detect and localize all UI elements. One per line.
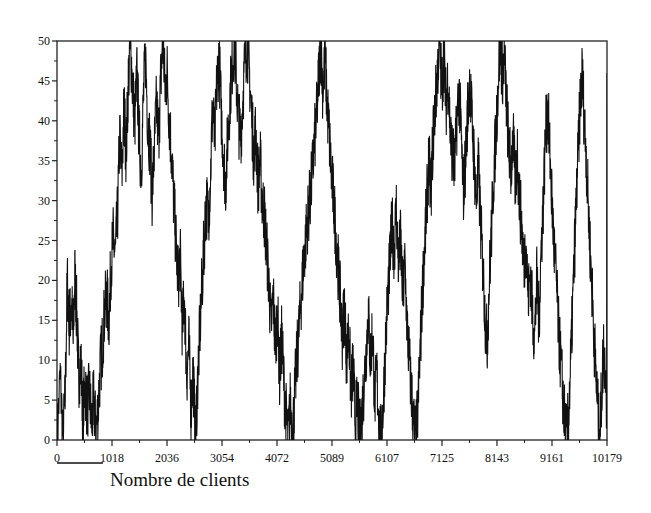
x-tick-label: 4072 <box>265 451 289 465</box>
x-tick-label: 3054 <box>210 451 234 465</box>
y-tick-label: 50 <box>38 34 50 48</box>
y-tick-label: 35 <box>38 154 50 168</box>
x-tick-label: 10179 <box>592 451 622 465</box>
series-line-nombre-de-clients <box>57 41 607 440</box>
y-tick-label: 15 <box>38 313 50 327</box>
legend: Nombre de clients <box>57 463 249 490</box>
x-tick-label: 6107 <box>375 451 399 465</box>
y-tick-label: 30 <box>38 194 50 208</box>
series-layer <box>57 41 607 440</box>
x-tick-label: 7125 <box>430 451 454 465</box>
x-tick-label: 8143 <box>485 451 509 465</box>
x-tick-label: 9161 <box>540 451 564 465</box>
y-tick-label: 25 <box>38 234 50 248</box>
y-tick-label: 45 <box>38 74 50 88</box>
y-tick-label: 0 <box>44 433 50 447</box>
y-tick-label: 10 <box>38 353 50 367</box>
x-axis: 0101820363054407250896107712581439161101… <box>54 440 622 465</box>
x-tick-label: 5089 <box>320 451 344 465</box>
x-tick-label: 2036 <box>155 451 179 465</box>
legend-label: Nombre de clients <box>110 469 249 490</box>
y-tick-label: 5 <box>44 393 50 407</box>
y-axis: 05101520253035404550 <box>38 34 57 447</box>
y-tick-label: 40 <box>38 114 50 128</box>
queue-length-chart: 05101520253035404550 0101820363054407250… <box>0 0 651 513</box>
y-tick-label: 20 <box>38 273 50 287</box>
x-tick-label: 1018 <box>100 451 124 465</box>
